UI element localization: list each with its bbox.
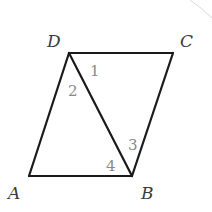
angle-label-4: 4 bbox=[106, 157, 116, 175]
vertex-label-a: A bbox=[6, 183, 20, 203]
segment-cb bbox=[132, 53, 173, 176]
vertex-label-d: D bbox=[46, 31, 61, 51]
vertex-label-c: C bbox=[180, 31, 193, 51]
angle-label-2: 2 bbox=[68, 82, 78, 100]
diagonal-db bbox=[69, 53, 132, 176]
decorative-arc bbox=[190, 0, 212, 18]
vertex-label-b: B bbox=[140, 183, 154, 203]
angle-label-3: 3 bbox=[128, 136, 138, 154]
parallelogram-diagram: D C A B 1 2 3 4 bbox=[0, 0, 212, 212]
angle-label-1: 1 bbox=[90, 62, 100, 80]
segment-ad bbox=[29, 53, 69, 176]
